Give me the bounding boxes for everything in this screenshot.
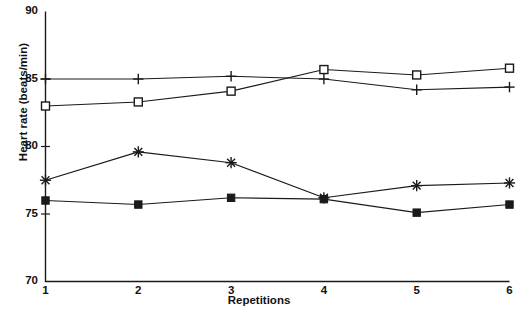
series-markers: [40, 64, 515, 216]
y-tick-label: 90: [8, 4, 38, 16]
y-axis-label: Heart rate (beats/min): [17, 27, 29, 177]
plus-series-markers: [40, 71, 514, 95]
asterisk-series-line: [46, 152, 510, 198]
x-tick-label: 3: [218, 284, 244, 296]
chart-axes: [46, 12, 510, 282]
open-square-series-line: [46, 68, 510, 106]
plus-series-line: [46, 76, 510, 90]
heart-rate-line-chart: Heart rate (beats/min) Repetitions 70758…: [0, 0, 518, 317]
y-tick-label: 75: [8, 207, 38, 219]
series-lines: [46, 68, 510, 212]
y-tick-label: 80: [8, 139, 38, 151]
x-axis-label: Repetitions: [0, 294, 518, 306]
y-tick-label: 85: [8, 72, 38, 84]
x-tick-label: 1: [33, 284, 59, 296]
plot-area: [0, 0, 518, 317]
x-tick-label: 6: [497, 284, 518, 296]
filled-square-series-markers: [42, 194, 513, 216]
x-tick-label: 4: [311, 284, 337, 296]
filled-square-series-line: [46, 198, 510, 213]
x-tick-label: 5: [404, 284, 430, 296]
x-tick-label: 2: [125, 284, 151, 296]
asterisk-series-markers: [40, 146, 515, 203]
